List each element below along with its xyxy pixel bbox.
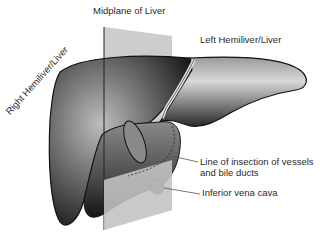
liver-diagram: Midplane of Liver Left Hemiliver/Liver R… <box>0 0 330 241</box>
label-midplane: Midplane of Liver <box>93 6 165 17</box>
label-insection: Line of insection of vessels and bile du… <box>200 157 314 179</box>
label-ivc: Inferior vena cava <box>202 188 278 199</box>
label-insection-line-2: and bile ducts <box>200 168 314 179</box>
label-left-hemiliver: Left Hemiliver/Liver <box>200 35 281 46</box>
